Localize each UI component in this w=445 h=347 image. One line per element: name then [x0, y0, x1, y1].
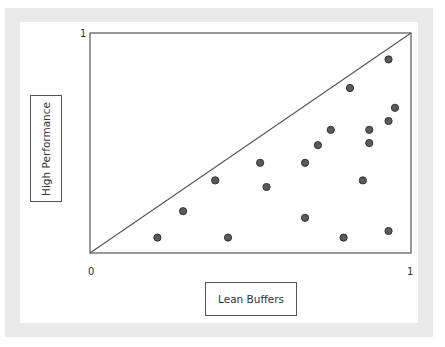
- x-axis-max-tick: 1: [407, 266, 413, 277]
- data-point: [366, 139, 373, 146]
- y-axis-label: High Performance: [40, 101, 52, 195]
- data-point: [340, 234, 347, 241]
- data-point: [314, 142, 321, 149]
- data-point: [301, 214, 308, 221]
- data-point: [327, 126, 334, 133]
- data-point: [301, 159, 308, 166]
- data-point: [366, 126, 373, 133]
- data-point: [385, 56, 392, 63]
- data-point: [257, 159, 264, 166]
- data-point: [154, 234, 161, 241]
- data-point: [359, 177, 366, 184]
- x-axis-label-box: Lean Buffers: [205, 282, 297, 316]
- data-point: [224, 234, 231, 241]
- y-axis-max-tick: 1: [80, 28, 86, 39]
- origin-tick: 0: [88, 266, 94, 277]
- x-axis-label: Lean Buffers: [218, 293, 284, 305]
- data-point: [263, 183, 270, 190]
- data-point: [385, 227, 392, 234]
- y-axis-label-box: High Performance: [30, 95, 62, 202]
- data-point: [391, 104, 398, 111]
- data-point: [385, 117, 392, 124]
- data-point: [179, 208, 186, 215]
- data-point: [346, 84, 353, 91]
- data-point: [212, 177, 219, 184]
